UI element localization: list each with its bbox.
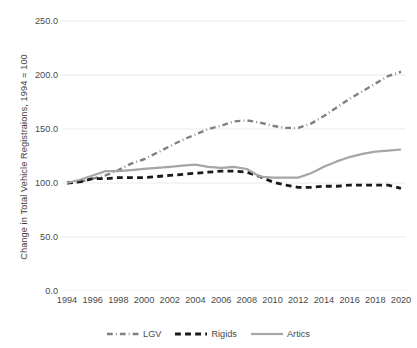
x-axis-tick-labels: 1994199619982000200220042006200820102012…: [62, 294, 406, 308]
x-tick-label: 2006: [211, 294, 231, 306]
legend-label: LGV: [143, 328, 161, 340]
y-axis-tick-labels: 250.0200.0150.0100.050.00.0: [28, 0, 58, 348]
plot-area: [62, 20, 406, 291]
x-tick-label: 2004: [185, 294, 205, 306]
legend-swatch-artics-icon: [251, 329, 283, 339]
legend-label: Artics: [287, 328, 310, 340]
y-tick-label: 50.0: [28, 232, 58, 242]
legend-item-rigids[interactable]: Rigids: [175, 328, 237, 340]
x-tick-label: 2002: [160, 294, 180, 306]
y-tick-label: 0.0: [28, 286, 58, 296]
series-line-rigids: [67, 171, 401, 188]
x-tick-label: 1998: [108, 294, 128, 306]
legend-swatch-lgv-icon: [107, 329, 139, 339]
y-tick-label: 250.0: [28, 16, 58, 26]
chart-container: Change in Total Vehicle Registraions, 19…: [0, 0, 417, 348]
x-tick-label: 2000: [134, 294, 154, 306]
legend-label: Rigids: [211, 328, 237, 340]
x-tick-label: 2008: [237, 294, 257, 306]
y-tick-label: 150.0: [28, 124, 58, 134]
y-tick-label: 200.0: [28, 70, 58, 80]
x-tick-label: 2010: [262, 294, 282, 306]
x-tick-label: 1996: [82, 294, 102, 306]
x-tick-label: 2014: [314, 294, 334, 306]
chart-svg: [62, 20, 406, 291]
x-tick-label: 2012: [288, 294, 308, 306]
legend-item-artics[interactable]: Artics: [251, 328, 310, 340]
chart-legend: LGVRigidsArtics: [0, 325, 417, 343]
x-tick-label: 2020: [391, 294, 411, 306]
x-tick-label: 1994: [57, 294, 77, 306]
legend-swatch-rigids-icon: [175, 329, 207, 339]
x-tick-label: 2016: [339, 294, 359, 306]
y-tick-label: 100.0: [28, 178, 58, 188]
legend-item-lgv[interactable]: LGV: [107, 328, 161, 340]
x-tick-label: 2018: [365, 294, 385, 306]
